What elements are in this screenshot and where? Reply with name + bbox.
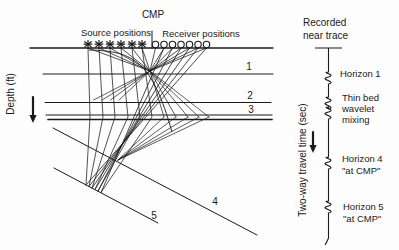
horizon-2-number: 2 <box>247 90 253 101</box>
ray-apex-to-receiver <box>150 48 190 71</box>
trace-note-mixing: mixing <box>342 114 369 125</box>
source-positions-label: Source positions <box>81 27 151 38</box>
ray-refracted-to-waist <box>118 117 188 160</box>
receiver-positions-label: Receiver positions <box>162 28 240 39</box>
ray-refracted-to-waist <box>118 117 209 160</box>
trace-note-wavelet: wavelet <box>341 103 375 114</box>
trace-note-horizon-5-at-cmp: "at CMP" <box>343 213 381 224</box>
horizon-4-number: 4 <box>212 196 218 207</box>
recorded-title-line2: near trace <box>303 30 348 41</box>
trace-note-horizon-4: Horizon 4 <box>342 153 383 164</box>
receiver-circle-icon <box>161 41 167 47</box>
ray-apex-extension <box>111 71 151 100</box>
trace-note-horizon-4-at-cmp: "at CMP" <box>342 165 380 176</box>
ray-downgoing-deep <box>89 48 103 187</box>
receiver-circle-icon <box>178 41 184 47</box>
receiver-circle-icon <box>195 41 201 47</box>
horizon-5-number: 5 <box>151 210 157 221</box>
recorded-title-line1: Recorded <box>303 17 346 28</box>
ray-refracted-to-waist <box>118 117 199 160</box>
horizon-3-number: 3 <box>248 104 254 115</box>
receiver-circle-icon <box>186 41 192 47</box>
depth-axis-label: Depth (ft) <box>5 73 16 115</box>
time-axis-label: Two-way travel time (sec) <box>297 103 308 216</box>
seismic-cmp-diagram: CMPSource positionsReceiver positionsDep… <box>0 0 399 250</box>
trace-note-horizon-1: Horizon 1 <box>340 68 381 79</box>
trace-note-horizon-5: Horizon 5 <box>343 201 384 212</box>
trace-note-thin-bed: Thin bed <box>342 92 379 103</box>
depth-arrow-icon-head <box>29 115 36 123</box>
time-arrow-icon-head <box>309 145 316 153</box>
receiver-circle-icon <box>152 41 158 47</box>
horizon-1-number: 1 <box>246 61 252 72</box>
ray-downgoing-deep <box>86 48 90 185</box>
receiver-circle-icon <box>169 41 175 47</box>
cmp-label: CMP <box>142 9 165 20</box>
recorded-trace <box>315 48 342 245</box>
seismic-cmp-figure: CMPSource positionsReceiver positionsDep… <box>0 0 399 250</box>
ray-apex-to-receiver <box>150 48 207 71</box>
receiver-circle-icon <box>203 41 209 47</box>
